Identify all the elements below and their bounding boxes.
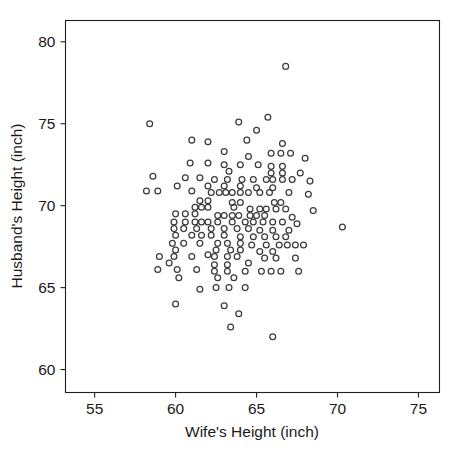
data-point [271, 200, 277, 206]
data-point [215, 240, 221, 246]
data-point [262, 234, 268, 240]
data-point [182, 175, 188, 181]
data-point [242, 219, 248, 225]
data-point [270, 249, 276, 255]
x-tick-label: 75 [410, 400, 427, 417]
data-point [157, 254, 163, 260]
data-point [147, 121, 153, 127]
data-point [254, 213, 260, 219]
data-point [171, 226, 177, 232]
data-point [262, 213, 268, 219]
data-point [197, 198, 203, 204]
y-axis-ticks: 6065707580 [38, 33, 65, 378]
data-point [194, 267, 200, 273]
data-point [237, 200, 243, 206]
data-point [189, 232, 195, 238]
data-point [278, 200, 284, 206]
data-point [293, 242, 299, 248]
data-point [213, 247, 219, 253]
data-point [280, 219, 286, 225]
data-point [197, 286, 203, 292]
data-point [254, 127, 260, 133]
clipped-page-header [232, 0, 446, 2]
data-point [182, 219, 188, 225]
data-point [257, 227, 263, 233]
data-point [286, 190, 292, 196]
data-point [176, 275, 182, 281]
data-point [246, 190, 252, 196]
data-point [237, 183, 243, 189]
data-point [307, 178, 313, 184]
data-point [339, 224, 345, 230]
data-point [221, 303, 227, 309]
scatter-plot-figure: 6065707580 5560657075 Wife's Height (inc… [0, 0, 457, 455]
data-point [221, 213, 227, 219]
data-point [212, 262, 218, 268]
y-tick-label: 75 [38, 115, 55, 132]
data-point [257, 206, 263, 212]
data-point [237, 247, 243, 253]
data-point [283, 234, 289, 240]
data-point [171, 219, 177, 225]
data-point [229, 190, 235, 196]
data-point [263, 242, 269, 248]
x-tick-label: 65 [248, 400, 265, 417]
data-point [239, 177, 245, 183]
data-point [288, 150, 294, 156]
data-point [237, 162, 243, 168]
data-point [244, 137, 250, 143]
data-point [265, 114, 271, 120]
data-point [280, 170, 286, 176]
data-point [294, 221, 300, 227]
data-point [144, 188, 150, 194]
data-point [228, 247, 234, 253]
data-point [208, 226, 214, 232]
plot-canvas: 6065707580 5560657075 Wife's Height (inc… [0, 0, 457, 455]
data-point [268, 170, 274, 176]
data-point [208, 190, 214, 196]
y-axis-title: Husband's Height (inch) [8, 124, 25, 289]
data-point [247, 206, 253, 212]
data-point [289, 214, 295, 220]
data-point [192, 204, 198, 210]
data-point [234, 254, 240, 260]
data-point [166, 260, 172, 266]
x-tick-label: 60 [167, 400, 185, 417]
data-point [216, 190, 222, 196]
data-point [231, 275, 237, 281]
data-point [236, 119, 242, 125]
data-point [229, 213, 235, 219]
data-point [225, 177, 231, 183]
data-point [255, 162, 261, 168]
data-point [173, 247, 179, 253]
data-point [297, 170, 303, 176]
data-point [213, 285, 219, 291]
data-point [212, 177, 218, 183]
data-point [212, 268, 218, 274]
data-point [205, 219, 211, 225]
data-point [181, 226, 187, 232]
data-point [228, 324, 234, 330]
data-point [221, 226, 227, 232]
data-point [199, 204, 205, 210]
data-point [215, 275, 221, 281]
data-point [174, 267, 180, 273]
data-point [236, 311, 242, 317]
data-point [150, 173, 156, 179]
data-point [284, 242, 290, 248]
data-point [197, 240, 203, 246]
x-tick-label: 70 [329, 400, 347, 417]
data-point [215, 213, 221, 219]
data-point [234, 226, 240, 232]
data-point [301, 242, 307, 248]
data-point [189, 188, 195, 194]
data-point [263, 206, 269, 212]
data-point [246, 154, 252, 160]
data-point [247, 213, 253, 219]
data-point [205, 183, 211, 189]
data-point [273, 255, 279, 261]
data-point [173, 211, 179, 217]
data-point [283, 206, 289, 212]
data-point [225, 268, 231, 274]
data-point [226, 168, 232, 174]
